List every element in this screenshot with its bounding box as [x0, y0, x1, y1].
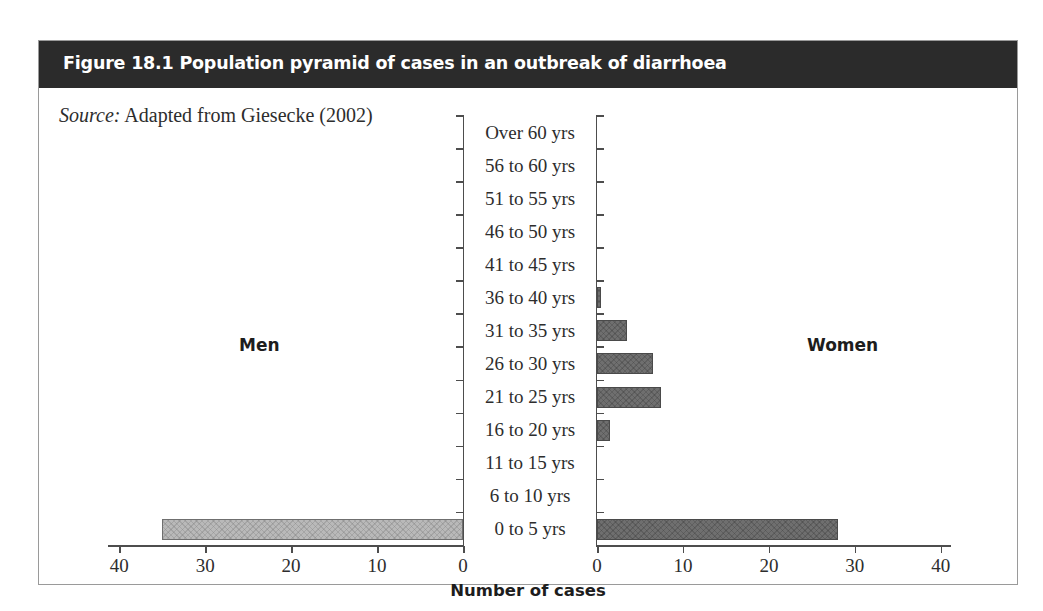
- bar-slot: [108, 116, 463, 149]
- bar-slot: [597, 347, 950, 380]
- x-tick: [377, 545, 379, 553]
- x-tick: [597, 545, 599, 553]
- category-label-panel: Over 60 yrs56 to 60 yrs51 to 55 yrs46 to…: [463, 116, 597, 546]
- bar-slot: [597, 182, 950, 215]
- x-tick-label: 40: [931, 555, 950, 577]
- category-row: 11 to 15 yrs: [464, 447, 596, 480]
- bar-slot: [597, 381, 950, 414]
- bar-slot: [108, 149, 463, 182]
- category-row: 16 to 20 yrs: [464, 414, 596, 447]
- x-tick: [119, 545, 121, 553]
- x-tick: [683, 545, 685, 553]
- category-label: 26 to 30 yrs: [485, 353, 575, 375]
- bar-slot: [597, 480, 950, 513]
- x-tick-label: 30: [845, 555, 864, 577]
- bar-women-12: [597, 519, 838, 540]
- series-label-men: Men: [239, 335, 280, 355]
- x-tick: [205, 545, 207, 553]
- category-row: 51 to 55 yrs: [464, 182, 596, 215]
- population-pyramid-plot: Men Women Over 60 yrs56 to 60 yrs51 to 5…: [39, 41, 1017, 584]
- x-tick-label: 0: [458, 555, 468, 577]
- bar-slot: [108, 447, 463, 480]
- x-tick: [291, 545, 293, 553]
- x-tick: [855, 545, 857, 553]
- x-tick-label: 10: [368, 555, 387, 577]
- category-row: Over 60 yrs: [464, 116, 596, 149]
- category-label: 6 to 10 yrs: [490, 485, 571, 507]
- category-row: 31 to 35 yrs: [464, 314, 596, 347]
- category-row: 0 to 5 yrs: [464, 513, 596, 546]
- x-tick-label: 20: [282, 555, 301, 577]
- bar-women-9: [597, 420, 610, 441]
- bar-slot: [108, 381, 463, 414]
- bar-slot: [597, 149, 950, 182]
- bar-slot: [108, 314, 463, 347]
- category-row: 6 to 10 yrs: [464, 480, 596, 513]
- category-label: 46 to 50 yrs: [485, 221, 575, 243]
- bar-slot: [108, 347, 463, 380]
- x-tick: [941, 545, 943, 553]
- category-row: 21 to 25 yrs: [464, 381, 596, 414]
- bar-slot: [108, 215, 463, 248]
- bar-slot: [597, 116, 950, 149]
- bars-women: [597, 116, 950, 546]
- x-tick-label: 10: [673, 555, 692, 577]
- category-label: 36 to 40 yrs: [485, 287, 575, 309]
- bar-slot: [108, 414, 463, 447]
- x-tick-label: 0: [592, 555, 602, 577]
- category-label: 16 to 20 yrs: [485, 419, 575, 441]
- bar-slot: [597, 414, 950, 447]
- bar-men-12: [162, 519, 463, 540]
- bar-slot: [108, 182, 463, 215]
- category-label: 41 to 45 yrs: [485, 254, 575, 276]
- bars-men: [108, 116, 463, 546]
- bar-slot: [597, 314, 950, 347]
- category-label: 56 to 60 yrs: [485, 155, 575, 177]
- category-row: 41 to 45 yrs: [464, 248, 596, 281]
- category-row: 46 to 50 yrs: [464, 215, 596, 248]
- category-label: 51 to 55 yrs: [485, 188, 575, 210]
- x-tick: [769, 545, 771, 553]
- x-tick-label: 40: [110, 555, 129, 577]
- category-label: 0 to 5 yrs: [494, 518, 565, 540]
- bar-slot: [597, 248, 950, 281]
- bar-slot: [108, 480, 463, 513]
- category-row: 26 to 30 yrs: [464, 347, 596, 380]
- x-axis-title: Number of cases: [39, 581, 1017, 600]
- category-label: 31 to 35 yrs: [485, 320, 575, 342]
- bar-slot: [108, 281, 463, 314]
- x-tick: [463, 545, 465, 553]
- category-label: 11 to 15 yrs: [485, 452, 575, 474]
- x-tick-label: 30: [196, 555, 215, 577]
- bar-women-7: [597, 353, 653, 374]
- bar-slot: [597, 447, 950, 480]
- category-row: 36 to 40 yrs: [464, 281, 596, 314]
- bar-slot: [597, 281, 950, 314]
- figure-container: Figure 18.1 Population pyramid of cases …: [38, 40, 1018, 585]
- bar-women-6: [597, 320, 627, 341]
- category-row: 56 to 60 yrs: [464, 149, 596, 182]
- bar-women-8: [597, 387, 661, 408]
- bar-slot: [597, 513, 950, 546]
- category-label: Over 60 yrs: [485, 122, 575, 144]
- bar-slot: [597, 215, 950, 248]
- category-label: 21 to 25 yrs: [485, 386, 575, 408]
- bar-slot: [108, 513, 463, 546]
- bar-slot: [108, 248, 463, 281]
- bar-women-5: [597, 287, 601, 308]
- x-tick-label: 20: [759, 555, 778, 577]
- series-label-women: Women: [807, 335, 878, 355]
